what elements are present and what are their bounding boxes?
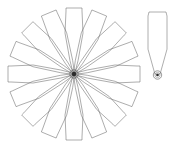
eyelet-core-dot [156, 74, 159, 77]
detached-petal-outline [148, 12, 167, 74]
rosette-petal [22, 22, 75, 75]
figure-canvas: Radial petal rosette with detached petal… [0, 0, 174, 147]
rosette-petal [8, 65, 74, 83]
eyelet-icon [153, 71, 161, 79]
rosette-petal [65, 8, 83, 74]
radial-petal-figure: Radial petal rosette with detached petal… [0, 0, 174, 147]
rosette-petal [74, 22, 127, 75]
rosette-petal [22, 74, 75, 127]
rosette-petal [74, 65, 140, 83]
rosette-petal [65, 74, 83, 140]
detached-petal [148, 12, 167, 74]
hub-core [72, 72, 76, 76]
rosette-petal [74, 74, 127, 127]
